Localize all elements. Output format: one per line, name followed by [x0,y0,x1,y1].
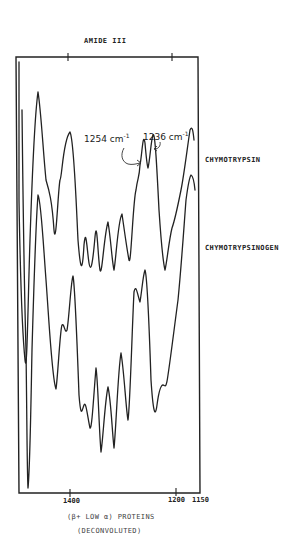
x-tick-label-1200: 1200 [168,496,185,504]
caption-line-1: (β+ LOW α) PROTEINS [67,513,155,521]
x-tick-label-1150: 1150 [192,496,209,504]
x-tick-label-1400: 1400 [63,497,80,505]
caption-line-2: (DECONVOLUTED) [77,527,142,535]
plot-frame [16,57,200,493]
annotation-1254: 1254 cm-1 [84,132,130,144]
chymotrypsin-curve [19,62,194,363]
chart-title: AMIDE III [84,37,126,45]
chymotrypsinogen-curve [22,110,195,488]
annotation-1236: 1236 cm-1 [143,130,189,142]
amide-iii-spectrum-chart: AMIDE III 1254 cm-1 1236 cm-1 CHYMOTRYPS… [0,0,307,550]
series-label-chymotrypsinogen: CHYMOTRYPSINOGEN [205,244,279,252]
series-label-chymotrypsin: CHYMOTRYPSIN [205,156,260,164]
annotation-arrow-1254 [122,148,140,164]
